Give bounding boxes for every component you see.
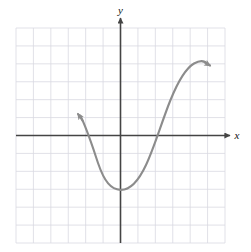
background [0, 0, 251, 252]
coordinate-plane-figure: x y [0, 0, 251, 252]
graph-svg: x y [0, 0, 251, 252]
x-axis-label: x [234, 129, 240, 141]
y-axis-label: y [117, 4, 123, 16]
